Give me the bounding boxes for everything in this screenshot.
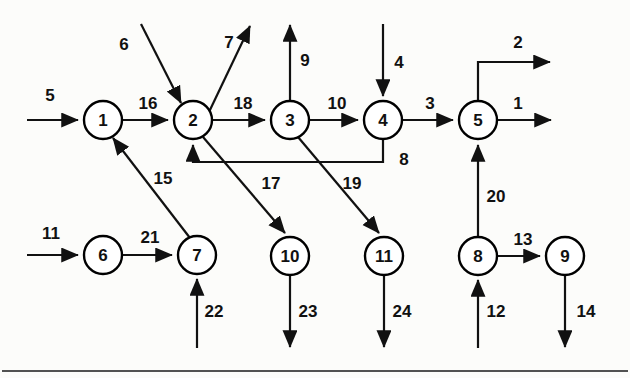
node-7[interactable]: 7 <box>178 236 216 274</box>
arc-label-15: 15 <box>154 169 173 188</box>
arc-label-7: 7 <box>224 33 233 52</box>
arc-label-3: 3 <box>425 94 434 113</box>
node-9[interactable]: 9 <box>546 237 584 275</box>
arc-label-11: 11 <box>42 224 60 243</box>
flow-network-diagram: 1 2 3 4 5 6 7 <box>0 0 630 378</box>
node-3[interactable]: 3 <box>271 101 309 139</box>
arc-label-5: 5 <box>45 86 54 105</box>
arc-label-22: 22 <box>205 302 224 321</box>
arc-label-17: 17 <box>262 174 281 193</box>
arc-label-23: 23 <box>299 302 318 321</box>
node-2[interactable]: 2 <box>174 101 212 139</box>
node-6-label: 6 <box>98 246 107 265</box>
arc-label-16: 16 <box>139 94 158 113</box>
arc-15-line <box>113 138 190 238</box>
node-8-label: 8 <box>473 247 482 266</box>
network-canvas: 1 2 3 4 5 6 7 <box>0 0 630 378</box>
node-11-label: 11 <box>375 247 393 266</box>
arc-label-10: 10 <box>328 94 347 113</box>
node-3-label: 3 <box>285 111 294 130</box>
arc-label-8: 8 <box>399 150 408 169</box>
arc-label-24: 24 <box>393 302 412 321</box>
arc-label-2: 2 <box>513 33 522 52</box>
node-6[interactable]: 6 <box>84 236 122 274</box>
arc-label-13: 13 <box>514 230 533 249</box>
arc-label-20: 20 <box>487 187 506 206</box>
arc-6-line <box>141 24 181 103</box>
arc-label-6: 6 <box>119 35 128 54</box>
arc-label-21: 21 <box>141 228 160 247</box>
node-4[interactable]: 4 <box>364 101 402 139</box>
node-10[interactable]: 10 <box>271 237 309 275</box>
arc-labels-group: 5 16 6 7 18 9 10 4 3 2 1 8 15 17 19 11 2… <box>42 33 596 321</box>
arc-label-18: 18 <box>234 94 253 113</box>
arc-label-19: 19 <box>343 174 362 193</box>
arc-label-12: 12 <box>487 302 506 321</box>
arc-19-line <box>298 137 379 233</box>
node-1[interactable]: 1 <box>84 101 122 139</box>
arc-label-14: 14 <box>577 302 596 321</box>
arc-label-4: 4 <box>394 53 404 72</box>
arc-label-1: 1 <box>513 94 522 113</box>
node-5-label: 5 <box>473 111 482 130</box>
node-7-label: 7 <box>192 246 201 265</box>
node-10-label: 10 <box>281 247 300 266</box>
arc-lines-group <box>27 24 565 348</box>
nodes-group: 1 2 3 4 5 6 7 <box>84 101 584 275</box>
node-8[interactable]: 8 <box>459 237 497 275</box>
node-11[interactable]: 11 <box>365 237 403 275</box>
node-9-label: 9 <box>560 247 569 266</box>
node-1-label: 1 <box>98 111 107 130</box>
arc-label-9: 9 <box>300 51 309 70</box>
node-4-label: 4 <box>378 111 388 130</box>
node-5[interactable]: 5 <box>459 101 497 139</box>
node-2-label: 2 <box>188 111 197 130</box>
